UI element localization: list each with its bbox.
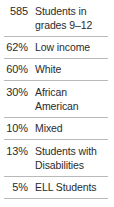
stat-label: Mixed	[35, 121, 108, 135]
stat-label: White	[35, 62, 108, 76]
stat-value: 13%	[4, 144, 35, 158]
table-row: 10% Mixed	[4, 118, 108, 140]
table-row: 5% ELL Students	[4, 177, 108, 199]
table-row: 60% White	[4, 59, 108, 81]
table-row: 30% African American	[4, 81, 108, 118]
stat-label: Students with Disabilities	[35, 144, 108, 172]
stat-value: 5%	[4, 180, 35, 194]
stat-value: 10%	[4, 121, 35, 135]
stat-value: 60%	[4, 62, 35, 76]
table-row: 585 Students in grades 9–12	[4, 0, 108, 37]
stat-value: 30%	[4, 85, 35, 99]
stat-label: African American	[35, 85, 108, 113]
stat-value: 585	[4, 4, 35, 18]
statistics-table: 585 Students in grades 9–12 62% Low inco…	[0, 0, 114, 207]
stat-value: 62%	[4, 40, 35, 54]
table-row: 62% Low income	[4, 37, 108, 59]
stat-label: Students in grades 9–12	[35, 4, 108, 32]
stat-label: Low income	[35, 40, 108, 54]
table-row: 13% Students with Disabilities	[4, 140, 108, 177]
stat-label: ELL Students	[35, 180, 108, 194]
